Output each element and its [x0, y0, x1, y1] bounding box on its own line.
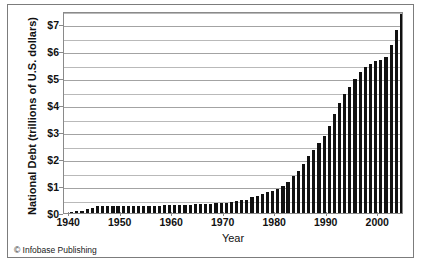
bar [250, 197, 253, 213]
bar [384, 57, 387, 213]
bar [230, 202, 233, 213]
bar [286, 182, 289, 213]
bar [245, 200, 248, 213]
x-tick-mark [120, 212, 121, 216]
x-tick-label: 1990 [303, 216, 349, 228]
x-tick-label: 1950 [97, 216, 143, 228]
bar [204, 204, 207, 213]
x-tick-label: 1960 [148, 216, 194, 228]
y-tick-label: $3 [3, 128, 59, 138]
bar [328, 126, 331, 213]
bar [323, 136, 326, 213]
x-tick-mark [326, 212, 327, 216]
bar [70, 212, 73, 213]
y-tick-label: $6 [3, 47, 59, 57]
y-tick-label: $1 [3, 182, 59, 192]
x-tick-mark [68, 212, 69, 216]
x-tick-label: 1970 [200, 216, 246, 228]
bar [132, 206, 135, 213]
bar [317, 143, 320, 213]
bar [271, 191, 274, 213]
bar [400, 14, 403, 213]
y-tick-mark [59, 214, 63, 215]
bar [225, 203, 228, 213]
bar [153, 206, 156, 213]
bar [101, 206, 104, 213]
bar [194, 204, 197, 213]
bar [374, 61, 377, 213]
bar [173, 205, 176, 213]
bar [127, 206, 130, 213]
plot-area [63, 12, 403, 214]
y-axis-ticks: $0$1$2$3$4$5$6$7 [0, 12, 59, 214]
bar [256, 196, 259, 214]
x-tick-label: 1980 [251, 216, 297, 228]
bar [292, 176, 295, 213]
bar [80, 211, 83, 213]
x-tick-mark [274, 212, 275, 216]
bar [343, 94, 346, 213]
bar [364, 67, 367, 213]
x-axis-label: Year [63, 232, 403, 244]
bar [214, 203, 217, 213]
bar [96, 206, 99, 213]
bar [158, 206, 161, 213]
x-axis-ticks: 1940195019601970198019902000 [63, 216, 403, 232]
bar [395, 30, 398, 213]
bar [137, 206, 140, 213]
bar [183, 205, 186, 213]
bar [122, 206, 125, 213]
bar [348, 87, 351, 213]
bar [359, 72, 362, 213]
bar [235, 201, 238, 213]
y-tick-label: $2 [3, 155, 59, 165]
bar [75, 211, 78, 213]
bar [147, 206, 150, 213]
bar [209, 204, 212, 213]
y-tick-label: $7 [3, 20, 59, 30]
bar [91, 208, 94, 213]
chart-figure: National Debt (trillions of U.S. dollars… [0, 0, 422, 265]
bar [281, 186, 284, 213]
bar [312, 150, 315, 213]
bar [240, 200, 243, 213]
x-tick-label: 1940 [45, 216, 91, 228]
bar [266, 192, 269, 213]
x-tick-label: 2000 [354, 216, 400, 228]
bar [297, 171, 300, 213]
bar [353, 79, 356, 213]
bar [302, 164, 305, 213]
credit-text: © Infobase Publishing [14, 245, 97, 255]
y-tick-label: $4 [3, 101, 59, 111]
bar [189, 205, 192, 213]
bar [163, 205, 166, 213]
bar [390, 45, 393, 213]
bar [307, 156, 310, 213]
bar [178, 205, 181, 213]
bar [111, 206, 114, 213]
y-tick-label: $5 [3, 74, 59, 84]
x-tick-mark [171, 212, 172, 216]
bar [333, 114, 336, 213]
bar [276, 189, 279, 214]
bar [86, 209, 89, 213]
bar [142, 206, 145, 213]
bar-series [64, 13, 402, 213]
bar [199, 204, 202, 213]
bar [379, 60, 382, 213]
x-tick-mark [223, 212, 224, 216]
bar [369, 64, 372, 213]
bar [261, 194, 264, 213]
bar [338, 103, 341, 213]
bar [106, 206, 109, 213]
x-tick-mark [377, 212, 378, 216]
